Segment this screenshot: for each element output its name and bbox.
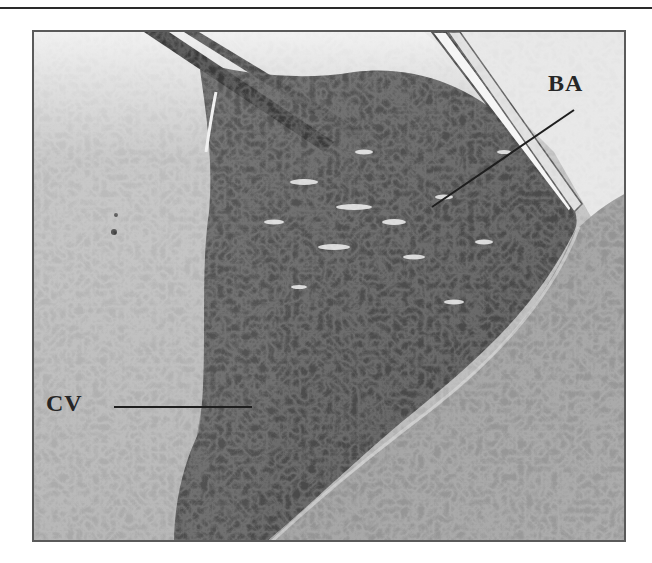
surgical-photo-illustration — [34, 32, 626, 542]
label-ba: BA — [548, 70, 583, 97]
label-cv: CV — [46, 390, 83, 417]
figure-photo: BA CV — [32, 30, 626, 542]
running-header-rule — [0, 7, 652, 9]
